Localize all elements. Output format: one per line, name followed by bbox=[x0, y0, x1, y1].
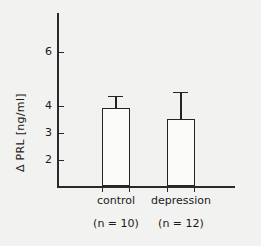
sample-size-depression: (n = 12) bbox=[146, 218, 216, 230]
error-bar-cap-depression bbox=[173, 92, 188, 93]
y-tick-4 bbox=[59, 106, 64, 107]
y-tick-label-2: 2 bbox=[36, 154, 52, 165]
bar-control bbox=[102, 108, 130, 186]
error-bar-cap-control bbox=[108, 96, 123, 97]
bar-chart-figure: 6 4 3 2 Δ PRL [ng/ml] control depression… bbox=[0, 0, 261, 246]
bar-depression bbox=[167, 119, 195, 186]
x-tick-control-right bbox=[129, 188, 130, 192]
error-bar-line-control bbox=[115, 96, 116, 109]
x-label-control: control bbox=[86, 195, 146, 207]
x-tick-control-left bbox=[102, 188, 103, 192]
x-axis-line bbox=[57, 186, 235, 188]
y-axis-line bbox=[57, 13, 59, 188]
x-label-depression: depression bbox=[146, 195, 216, 207]
y-tick-label-6: 6 bbox=[36, 46, 52, 57]
x-tick-depression-left bbox=[167, 188, 168, 192]
y-tick-6 bbox=[59, 52, 64, 53]
x-tick-depression-right bbox=[194, 188, 195, 192]
y-tick-2 bbox=[59, 160, 64, 161]
y-axis-label: Δ PRL [ng/ml] bbox=[14, 93, 27, 172]
error-bar-line-depression bbox=[180, 92, 181, 120]
y-tick-label-4: 4 bbox=[36, 100, 52, 111]
y-tick-label-3: 3 bbox=[36, 127, 52, 138]
y-tick-3 bbox=[59, 133, 64, 134]
sample-size-control: (n = 10) bbox=[86, 218, 146, 230]
